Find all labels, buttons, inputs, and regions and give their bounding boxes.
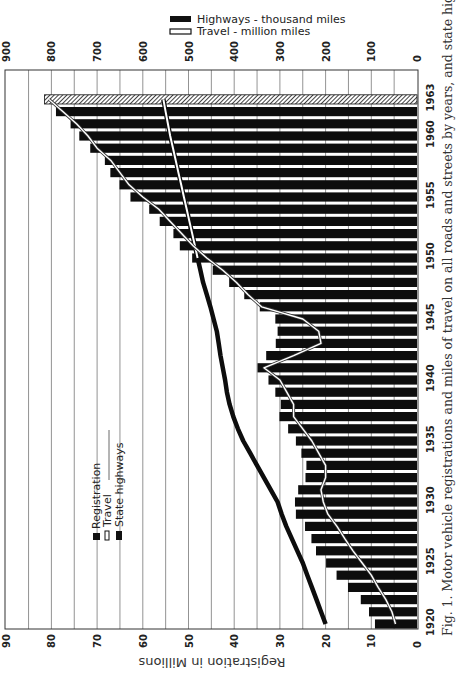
registration-bar-1931 [298,485,417,494]
registration-bar-1947 [244,290,417,299]
year-tick-label: 1940 [425,364,436,392]
bottom-tick-label: 90 [1,634,12,648]
gridlines [29,70,395,629]
top-tick-label: 200 [321,41,332,62]
registration-bar-1939 [275,388,417,397]
top-tick-label: 400 [229,41,240,62]
registration-bar-1927 [311,534,417,543]
registration-bar-1944 [278,327,417,336]
travel-legend-label: Travel - million miles [196,25,310,38]
registration-bar-1940 [268,375,417,384]
top-tick-label: 100 [366,41,377,62]
year-tick-label: 1920 [425,608,436,636]
top-axis-ticks: 0100200300400500600700800900 [1,41,423,62]
top-tick-label: 700 [92,41,103,62]
top-tick-label: 800 [46,41,57,62]
travel-inner-legend-swatch [105,531,109,540]
registration-bar-1963 [45,95,417,104]
registration-bar-1928 [305,522,417,531]
year-axis-ticks: 1920192519301935194019451950195519601963 [425,84,436,636]
registration-bar-1949 [213,266,417,275]
top-tick-label: 900 [1,41,12,62]
chart: 0100200300400500600700800900 01020304050… [0,0,466,675]
registration-bar-1943 [276,339,417,348]
registration-bar-1937 [279,412,417,421]
registration-bar-1957 [110,168,417,177]
registration-bar-1961 [71,119,417,128]
year-tick-label: 1945 [425,303,436,331]
registration-bar-1926 [316,546,417,555]
registration-bars [45,95,417,629]
highways-legend-swatch [170,16,191,22]
state-highways-line [163,99,325,624]
year-tick-label: 1963 [425,84,436,112]
registration-bar-1962 [56,107,417,116]
top-tick-label: 0 [412,55,423,62]
registration-bar-1953 [160,217,417,226]
registration-bar-1929 [296,510,417,519]
year-tick-label: 1930 [425,486,436,514]
bottom-tick-label: 40 [229,634,240,648]
bottom-tick-label: 0 [412,641,423,648]
bottom-tick-label: 30 [275,634,286,648]
registration-bar-1925 [326,558,417,567]
registration-bar-1938 [281,400,417,409]
bottom-tick-label: 70 [92,634,103,648]
year-tick-label: 1935 [425,425,436,453]
registration-bar-1923 [348,583,417,592]
registration-bar-1956 [119,180,417,189]
year-tick-label: 1960 [425,120,436,148]
bottom-tick-label: 10 [366,634,377,648]
registration-bar-1958 [105,156,417,165]
registration-bar-1950 [192,253,417,262]
year-tick-label: 1925 [425,547,436,575]
bottom-tick-label: 80 [46,634,57,648]
registration-bar-1932 [305,473,417,482]
registration-bar-1941 [258,363,417,372]
registration-legend-swatch [93,533,100,540]
registration-bar-1946 [260,302,417,311]
figure-caption: Fig. 1. Motor vehicle registrations and … [440,0,455,636]
registration-bar-1951 [180,241,417,250]
bottom-tick-label: 50 [184,634,195,648]
registration-bar-1959 [90,144,417,153]
top-tick-label: 600 [138,41,149,62]
highways-inner-legend-swatch [116,531,122,540]
top-legend: Highways - thousand miles Travel - milli… [170,13,346,38]
registration-bar-1936 [288,424,417,433]
registration-bar-1955 [130,192,417,201]
registration-bar-1952 [173,229,417,238]
data-lines [49,99,395,624]
travel-legend-swatch [170,29,191,34]
top-tick-label: 300 [275,41,286,62]
registration-bar-1930 [295,497,417,506]
bottom-axis-ticks: 0102030405060708090 [1,634,423,648]
highways-inner-legend-label: State highways [113,442,126,527]
registration-bar-1960 [79,131,417,140]
bottom-tick-label: 60 [138,634,149,648]
inner-legend: Registration Travel State highways [90,430,126,540]
year-tick-label: 1950 [425,242,436,270]
year-tick-label: 1955 [425,181,436,209]
registration-bar-1924 [337,571,417,580]
top-tick-label: 500 [184,41,195,62]
bottom-axis-title: Registration in Millions [138,655,285,670]
bottom-tick-label: 20 [321,634,332,648]
registration-bar-1948 [229,278,417,287]
